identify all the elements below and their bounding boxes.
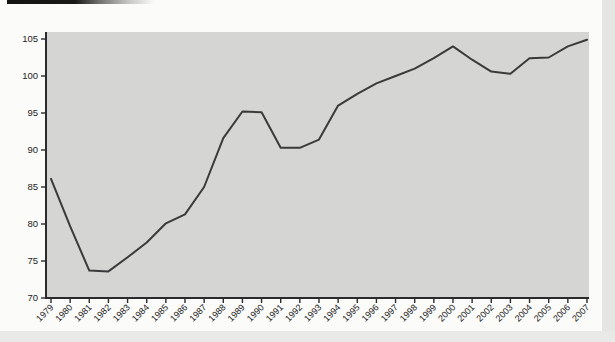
x-tick-label: 1979 [34,302,55,323]
x-tick-label: 2004 [513,302,534,323]
x-tick-label: 1980 [53,302,74,323]
x-tick-label: 1993 [302,302,323,323]
x-tick-label: 2000 [436,302,457,323]
x-tick-label: 1990 [245,302,266,323]
x-tick-label: 1995 [340,302,361,323]
x-tick-label: 1989 [226,302,247,323]
x-tick-label: 1983 [111,302,132,323]
x-tick-label: 1997 [379,302,400,323]
figure-page: 7075808590951001051979198019811982198319… [0,0,615,342]
y-tick-label: 95 [27,107,38,118]
x-tick-label: 1984 [130,302,151,323]
x-tick-label: 1999 [417,302,438,323]
x-tick-label: 1998 [398,302,419,323]
x-tick-label: 2005 [532,302,553,323]
x-tick-label: 1982 [92,302,113,323]
x-tick-label: 1986 [168,302,189,323]
x-tick-label: 1981 [72,302,93,323]
x-tick-label: 2001 [455,302,476,323]
x-tick-label: 1992 [283,302,304,323]
x-tick-label: 1987 [187,302,208,323]
x-tick-label: 1996 [360,302,381,323]
x-tick-label: 1988 [206,302,227,323]
x-tick-label: 2003 [494,302,515,323]
x-tick-label: 2002 [474,302,495,323]
x-tick-label: 2007 [570,302,591,323]
y-tick-label: 90 [27,144,38,155]
x-tick-label: 2006 [551,302,572,323]
x-tick-label: 1994 [321,302,342,323]
y-tick-label: 80 [27,218,38,229]
y-tick-label: 85 [27,181,38,192]
y-tick-label: 105 [22,33,38,44]
x-tick-label: 1991 [264,302,285,323]
x-tick-label: 1985 [149,302,170,323]
line-chart-canvas: 7075808590951001051979198019811982198319… [0,0,615,342]
y-tick-label: 75 [27,255,38,266]
y-tick-label: 70 [27,292,38,303]
y-tick-label: 100 [22,70,38,81]
line-chart: 7075808590951001051979198019811982198319… [0,0,615,342]
